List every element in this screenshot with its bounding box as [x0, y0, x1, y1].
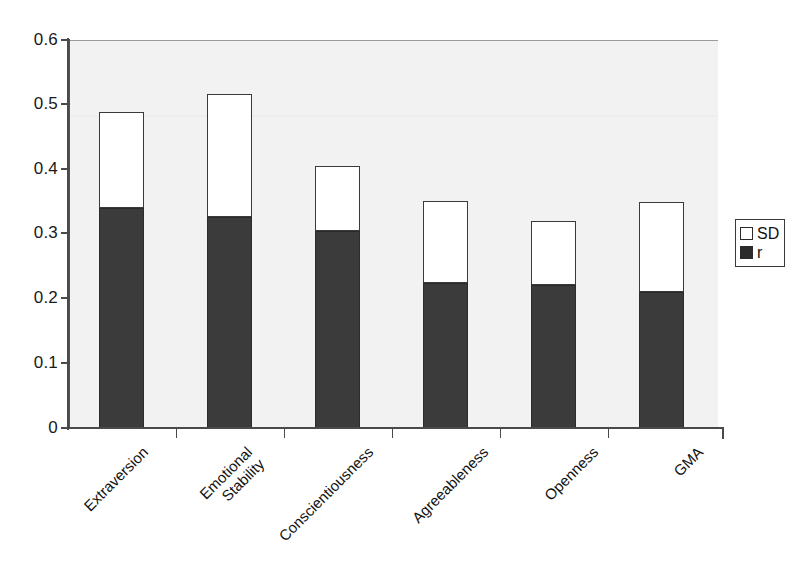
bar-emotional-stability[interactable] [207, 94, 252, 428]
legend-label-r: r [757, 245, 762, 261]
bar-segment-sd [315, 166, 360, 231]
y-axis-tick-0.5 [61, 103, 70, 105]
bar-segment-r [207, 217, 252, 428]
legend-swatch-r-icon [740, 246, 753, 259]
bar-segment-r [99, 208, 144, 428]
legend-item-sd[interactable]: SD [740, 224, 779, 243]
bar-segment-r [423, 283, 468, 428]
x-axis-label-gma: GMA [638, 444, 706, 512]
x-axis-tick-3 [392, 429, 393, 438]
y-axis-tick-0.2 [61, 297, 70, 299]
chart-legend: SD r [735, 219, 785, 267]
legend-label-sd: SD [757, 226, 779, 242]
x-axis-tick-4 [500, 429, 501, 438]
y-axis-label-0.5: 0.5 [0, 95, 58, 112]
y-axis-label-0.1: 0.1 [0, 354, 58, 371]
bar-segment-sd [423, 201, 468, 283]
y-axis-line [67, 38, 69, 430]
x-axis-tick-2 [284, 429, 285, 438]
y-axis-tick-0.3 [61, 232, 70, 234]
plot-texture-band [70, 115, 718, 117]
x-axis-label-emotional-stability: Emotional Stability [145, 444, 268, 564]
y-axis-tick-0.6 [61, 39, 70, 41]
bar-agreeableness[interactable] [423, 201, 468, 428]
bar-chart: 0.6 0.5 0.4 0.3 0.2 0.1 0 [0, 0, 800, 564]
y-axis-label-0.2: 0.2 [0, 289, 58, 306]
bar-gma[interactable] [639, 202, 684, 428]
bar-segment-r [531, 285, 576, 428]
y-axis-label-0.6: 0.6 [0, 31, 58, 48]
legend-swatch-sd-icon [740, 227, 753, 240]
x-axis-label-extraversion: Extraversion [41, 444, 152, 555]
bar-segment-sd [639, 202, 684, 292]
plot-area [68, 40, 718, 428]
x-axis-end-tick [722, 429, 724, 439]
bar-segment-r [315, 231, 360, 428]
x-axis-line [62, 427, 724, 429]
y-axis-label-0.3: 0.3 [0, 224, 58, 241]
bar-segment-r [639, 292, 684, 428]
bar-segment-sd [99, 112, 144, 208]
x-axis-tick-5 [608, 429, 609, 438]
bar-openness[interactable] [531, 221, 576, 428]
y-axis-tick-0.4 [61, 168, 70, 170]
y-axis-label-0: 0 [0, 419, 58, 436]
y-axis-tick-0.1 [61, 362, 70, 364]
bar-extraversion[interactable] [99, 112, 144, 428]
bar-segment-sd [531, 221, 576, 285]
bar-segment-sd [207, 94, 252, 217]
legend-item-r[interactable]: r [740, 243, 779, 262]
bar-conscientiousness[interactable] [315, 166, 360, 428]
x-axis-tick-1 [176, 429, 177, 438]
y-axis-label-0.4: 0.4 [0, 160, 58, 177]
x-axis-label-agreeableness: Agreeableness [374, 444, 492, 562]
x-axis-label-openness: Openness [505, 444, 602, 541]
